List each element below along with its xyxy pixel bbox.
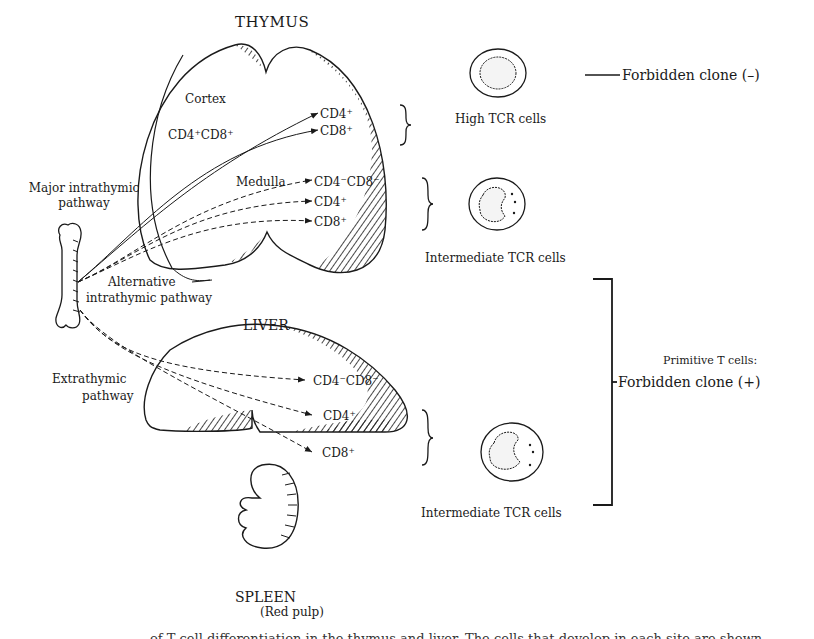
forbidden-clone-positive: Forbidden clone (+) bbox=[618, 375, 760, 389]
cortex-label: Cortex bbox=[185, 93, 226, 105]
major-pathway-label-2: pathway bbox=[14, 197, 154, 209]
thymus-title: THYMUS bbox=[235, 15, 309, 30]
intermediate-tcr-label-thymus: Intermediate TCR cells bbox=[425, 252, 566, 264]
liver-output-cd4: CD4⁺ bbox=[323, 410, 356, 422]
high-tcr-label: High TCR cells bbox=[455, 113, 546, 125]
liver-title: LIVER bbox=[243, 318, 289, 332]
spleen-title: SPLEEN bbox=[235, 590, 296, 604]
figure-caption-truncated: of T cell differentiation in the thymus … bbox=[150, 632, 762, 639]
precursor-label: CD4⁺CD8⁺ bbox=[168, 129, 234, 141]
thymus-output-dn: CD4⁻CD8⁻ bbox=[314, 176, 380, 188]
extrathymic-label-2: pathway bbox=[82, 390, 134, 402]
alternative-pathway-label-2: intrathymic pathway bbox=[86, 292, 212, 304]
medulla-label: Medulla bbox=[236, 176, 286, 188]
alternative-pathway-label-1: Alternative bbox=[108, 276, 176, 288]
thymus-output-cd4-alt: CD4⁺ bbox=[314, 196, 347, 208]
thymus-output-cd4: CD4⁺ bbox=[320, 108, 353, 120]
spleen-organ bbox=[239, 464, 299, 548]
primitive-t-cells-heading: Primitive T cells: bbox=[663, 355, 757, 366]
thymus-organ bbox=[138, 44, 389, 281]
bone-marrow-icon bbox=[56, 223, 81, 327]
primitive-bracket bbox=[593, 279, 617, 505]
intermediate-tcr-cell-icon-liver bbox=[481, 423, 543, 481]
high-tcr-cell-icon bbox=[470, 49, 526, 97]
forbidden-clone-negative: Forbidden clone (–) bbox=[622, 68, 760, 82]
intermediate-tcr-label-liver: Intermediate TCR cells bbox=[421, 507, 562, 519]
spleen-subtitle: (Red pulp) bbox=[260, 606, 324, 618]
liver-output-dn: CD4⁻CD8⁻ bbox=[313, 375, 379, 387]
thymus-output-cd8: CD8⁺ bbox=[320, 125, 353, 137]
thymus-output-cd8-alt: CD8⁺ bbox=[314, 216, 347, 228]
major-pathway-label-1: Major intrathymic bbox=[14, 182, 154, 194]
t-cell-differentiation-diagram bbox=[0, 0, 814, 639]
liver-output-cd8: CD8⁺ bbox=[322, 447, 355, 459]
extrathymic-label-1: Extrathymic bbox=[52, 373, 127, 385]
intermediate-tcr-cell-icon bbox=[469, 178, 525, 230]
